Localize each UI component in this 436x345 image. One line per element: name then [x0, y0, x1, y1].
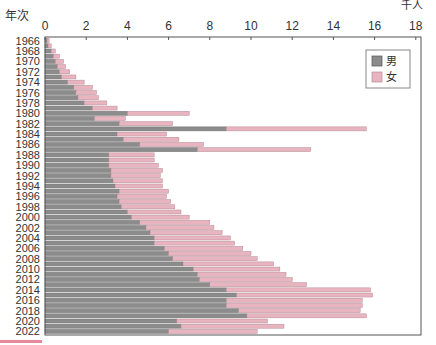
bar-female: [169, 252, 251, 256]
bar-male: [45, 85, 74, 89]
bar-male: [45, 309, 239, 313]
bar-female: [84, 101, 107, 105]
legend-label-male: 男: [386, 55, 397, 67]
bar-female: [226, 298, 362, 302]
bar-male: [45, 91, 76, 95]
bar-female: [197, 272, 286, 276]
bar-female: [59, 70, 69, 74]
bar-male: [45, 153, 109, 157]
bar-female: [121, 205, 175, 209]
legend: 男 女: [366, 50, 410, 88]
bar-female: [51, 49, 55, 53]
bar-male: [45, 252, 169, 256]
bar-male: [45, 246, 164, 250]
bar-male: [45, 158, 109, 162]
bar-male: [45, 226, 146, 230]
bar-female: [109, 158, 154, 162]
bar-male: [45, 314, 247, 318]
bar-female: [164, 246, 242, 250]
bar-male: [45, 168, 111, 172]
bar-female: [111, 174, 160, 178]
bar-female: [226, 303, 362, 307]
bar-male: [45, 174, 111, 178]
bar-male: [45, 70, 59, 74]
bar-male: [45, 272, 197, 276]
bar-female: [226, 127, 366, 131]
bar-female: [140, 220, 210, 224]
stacked-bar-chart: 024681012141618 196619681970197219741976…: [0, 0, 436, 345]
bar-male: [45, 288, 226, 292]
bar-male: [45, 205, 121, 209]
bar-female: [109, 153, 154, 157]
bar-female: [113, 179, 162, 183]
x-axis-unit: 千人: [401, 0, 423, 11]
bar-female: [200, 277, 293, 281]
bar-female: [210, 283, 307, 287]
bar-female: [181, 324, 284, 328]
bar-male: [45, 329, 169, 333]
bar-male: [45, 210, 127, 214]
bar-male: [45, 127, 226, 131]
bar-male: [45, 220, 140, 224]
bar-female: [115, 184, 162, 188]
bar-male: [45, 137, 123, 141]
bar-male: [45, 262, 183, 266]
bar-male: [45, 80, 68, 84]
bar-female: [193, 267, 280, 271]
bar-female: [94, 116, 125, 120]
bar-male: [45, 231, 150, 235]
bar-male: [45, 65, 57, 69]
bar-male: [45, 283, 210, 287]
bar-female: [140, 142, 204, 146]
x-tick-label: 14: [327, 19, 341, 33]
bar-male: [45, 267, 193, 271]
bar-female: [109, 163, 158, 167]
bar-female: [119, 200, 171, 204]
bar-male: [45, 75, 61, 79]
bar-male: [45, 122, 119, 126]
bar-female: [132, 215, 190, 219]
bar-female: [127, 111, 189, 115]
bar-female: [119, 122, 173, 126]
bar-female: [117, 194, 166, 198]
bar-male: [45, 59, 55, 63]
bar-male: [45, 215, 132, 219]
bar-male: [45, 236, 154, 240]
bar-male: [45, 142, 140, 146]
bar-female: [127, 210, 181, 214]
bar-male: [45, 116, 94, 120]
bar-female: [57, 65, 65, 69]
bar-female: [48, 44, 51, 48]
bar-female: [146, 226, 214, 230]
bar-female: [92, 106, 117, 110]
bar-female: [47, 39, 49, 43]
bar-male: [45, 200, 119, 204]
bar-female: [119, 189, 168, 193]
bar-male: [45, 194, 117, 198]
bar-female: [183, 262, 274, 266]
y-axis-title: 年次: [5, 9, 29, 23]
decorative-mark: [0, 340, 42, 343]
x-tick-label: 18: [409, 19, 423, 33]
bar-male: [45, 49, 51, 53]
bar-female: [55, 59, 63, 63]
legend-swatch-male: [372, 56, 382, 66]
x-tick-label: 12: [286, 19, 300, 33]
bar-female: [154, 236, 230, 240]
x-tick-label: 16: [368, 19, 382, 33]
bar-male: [45, 324, 181, 328]
bar-female: [237, 293, 373, 297]
y-axis-labels: 1966196819701972197419761978198019821984…: [16, 35, 40, 338]
bar-female: [239, 309, 361, 313]
bar-male: [45, 179, 113, 183]
x-tick-label: 4: [124, 19, 131, 33]
bar-male: [45, 111, 127, 115]
y-tick-label: 2022: [16, 325, 40, 337]
bar-male: [45, 319, 177, 323]
bar-male: [45, 184, 115, 188]
bar-male: [45, 96, 78, 100]
bar-female: [150, 231, 222, 235]
bar-female: [154, 241, 234, 245]
bar-male: [45, 101, 84, 105]
bar-male: [45, 106, 92, 110]
